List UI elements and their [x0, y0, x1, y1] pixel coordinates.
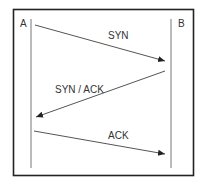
syn-ack-label: SYN / ACK — [55, 84, 104, 95]
syn-arrow — [35, 25, 165, 61]
ack-label: ACK — [108, 130, 129, 141]
sequence-diagram: A B SYN SYN / ACK ACK — [0, 0, 207, 186]
participant-a-label: A — [20, 18, 27, 29]
participant-b-label: B — [178, 18, 185, 29]
diagram-canvas: A B SYN SYN / ACK ACK — [0, 0, 207, 186]
syn-label: SYN — [108, 30, 129, 41]
ack-arrow — [34, 131, 165, 154]
